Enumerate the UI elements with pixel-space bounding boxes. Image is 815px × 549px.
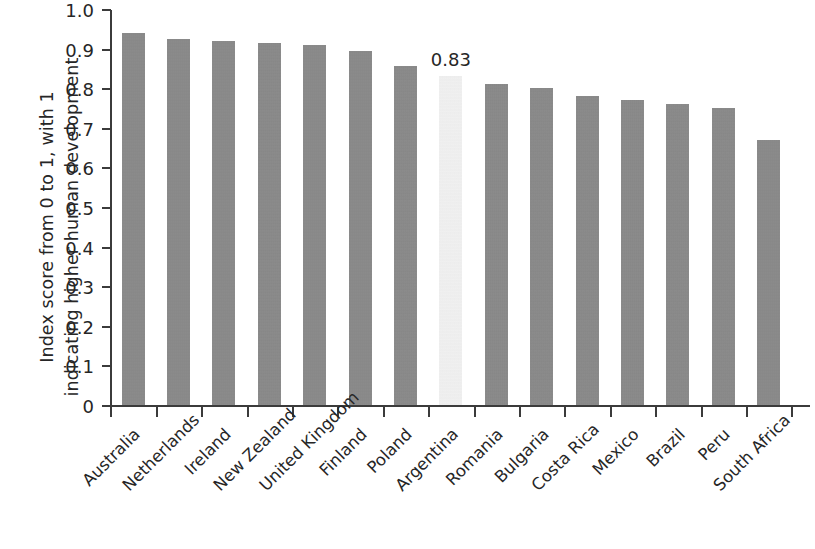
bar-brazil xyxy=(666,104,689,405)
x-tick xyxy=(655,406,657,417)
x-tick xyxy=(746,406,748,417)
y-tick: 0.5 xyxy=(102,207,111,209)
x-tick xyxy=(428,406,430,417)
y-tick-label: 0.5 xyxy=(65,198,94,219)
bar-south-africa xyxy=(757,140,780,405)
y-tick-label: 0.3 xyxy=(65,277,94,298)
bar-chart: Index score from 0 to 1, with 1 indicati… xyxy=(0,0,815,549)
x-tick xyxy=(201,406,203,417)
bar-poland xyxy=(394,66,417,405)
bar-ireland xyxy=(212,41,235,405)
bar-new-zealand xyxy=(258,43,281,405)
y-tick: 0.2 xyxy=(102,326,111,328)
x-tick xyxy=(610,406,612,417)
bar-mexico xyxy=(621,100,644,405)
bar-finland xyxy=(349,51,372,405)
y-tick: 0.1 xyxy=(102,365,111,367)
x-tick xyxy=(701,406,703,417)
value-label-argentina: 0.83 xyxy=(431,49,471,70)
y-tick: 0.7 xyxy=(102,128,111,130)
y-tick: 0.4 xyxy=(102,247,111,249)
x-tick xyxy=(474,406,476,417)
x-tick xyxy=(247,406,249,417)
x-tick xyxy=(791,406,793,417)
y-tick: 1.0 xyxy=(102,9,111,11)
y-tick-label: 0.1 xyxy=(65,356,94,377)
x-tick xyxy=(110,406,112,417)
x-tick xyxy=(564,406,566,417)
y-tick: 0.3 xyxy=(102,286,111,288)
y-tick-label: 0 xyxy=(83,396,94,417)
bar-united-kingdom xyxy=(303,45,326,405)
y-axis-title-line-2: indicating higher human development xyxy=(60,58,85,397)
plot-area: 1.00.90.80.70.60.50.40.30.20.10 0.83 xyxy=(116,10,810,406)
y-tick-label: 1.0 xyxy=(65,0,94,21)
bar-bulgaria xyxy=(530,88,553,405)
bar-australia xyxy=(122,33,145,405)
x-tick xyxy=(519,406,521,417)
y-tick-label: 0.6 xyxy=(65,158,94,179)
bar-argentina xyxy=(439,76,462,405)
y-tick-label: 0.9 xyxy=(65,39,94,60)
y-tick-label: 0.8 xyxy=(65,79,94,100)
y-tick: 0.8 xyxy=(102,88,111,90)
bar-costa-rica xyxy=(576,96,599,405)
x-axis-line xyxy=(102,405,810,407)
bar-netherlands xyxy=(167,39,190,405)
y-tick-label: 0.2 xyxy=(65,316,94,337)
y-axis-title-line-1: Index score from 0 to 1, with 1 xyxy=(35,91,60,363)
y-tick: 0.9 xyxy=(102,49,111,51)
y-tick-label: 0.4 xyxy=(65,237,94,258)
bar-romania xyxy=(485,84,508,405)
y-tick-label: 0.7 xyxy=(65,118,94,139)
y-tick: 0.6 xyxy=(102,167,111,169)
bar-peru xyxy=(712,108,735,405)
x-tick xyxy=(383,406,385,417)
x-tick xyxy=(156,406,158,417)
